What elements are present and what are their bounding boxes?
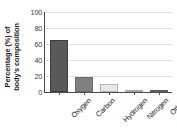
x-tick-label-other: Other* [168, 96, 177, 117]
plot-area: 020406080100 OxygenCarbonHydrogenNitroge… [46, 12, 172, 92]
y-tick-label-100: 100 [31, 8, 42, 17]
y-tick-label-0: 0 [38, 88, 42, 97]
x-tick-label-carbon: Carbon [94, 96, 117, 119]
bar-oxygen [50, 40, 68, 92]
gridline-100 [46, 12, 172, 13]
gridline-80 [46, 28, 172, 29]
bar-carbon [75, 77, 93, 92]
y-tick-label-80: 80 [34, 24, 42, 33]
y-tick-label-20: 20 [34, 72, 42, 81]
y-axis-title-line-1: Percentage (%) of [3, 5, 12, 109]
x-tickmark-0 [59, 93, 60, 95]
x-tickmark-3 [134, 93, 135, 95]
x-tick-label-hydrogen: Hydrogen [121, 96, 149, 124]
y-tick-label-60: 60 [34, 40, 42, 49]
x-tickmark-1 [84, 93, 85, 95]
x-tick-label-oxygen: Oxygen [69, 96, 93, 120]
bar-hydrogen [100, 84, 118, 92]
x-tick-label-nitrogen: Nitrogen [145, 96, 170, 121]
x-tickmark-4 [159, 93, 160, 95]
x-axis-line [44, 92, 172, 93]
y-axis-line [44, 12, 45, 93]
y-axis-title: Percentage (%) of body's composition [3, 5, 25, 109]
bar-chart-figure: Percentage (%) of body's composition 020… [0, 0, 177, 134]
y-axis-title-line-2: body's composition [12, 5, 21, 109]
y-tick-label-40: 40 [34, 56, 42, 65]
